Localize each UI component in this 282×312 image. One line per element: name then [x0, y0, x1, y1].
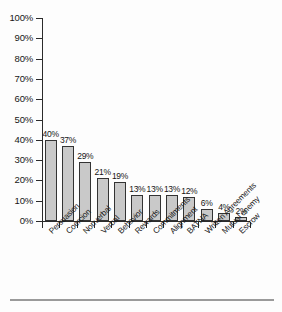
y-tick-label-30: 30% — [0, 155, 33, 165]
y-tick-label-10: 10% — [0, 196, 33, 206]
y-tick-label-90: 90% — [0, 33, 33, 43]
plot-area: 40%37%29%21%19%13%13%13%12%6%4%2% — [42, 18, 250, 221]
bar-value-label-1: 37% — [56, 136, 80, 145]
bar-value-label-2: 29% — [73, 152, 97, 161]
y-tick-label-80: 80% — [0, 54, 33, 64]
y-tick-label-100: 100% — [0, 13, 33, 23]
bar-chart: 100%90%80%70%60%50%40%30%20%10%0% 40%37%… — [0, 0, 282, 312]
y-tick-label-20: 20% — [0, 175, 33, 185]
page-divider-rule — [10, 299, 274, 301]
y-tick-label-40: 40% — [0, 135, 33, 145]
bar-value-label-4: 19% — [108, 172, 132, 181]
y-tick-label-70: 70% — [0, 74, 33, 84]
bar-0 — [45, 140, 57, 221]
y-tick-label-0: 0% — [0, 216, 33, 226]
bar-value-label-8: 12% — [177, 187, 201, 196]
y-tick-label-50: 50% — [0, 115, 33, 125]
y-tick-label-60: 60% — [0, 94, 33, 104]
x-tick-0 — [42, 222, 43, 228]
